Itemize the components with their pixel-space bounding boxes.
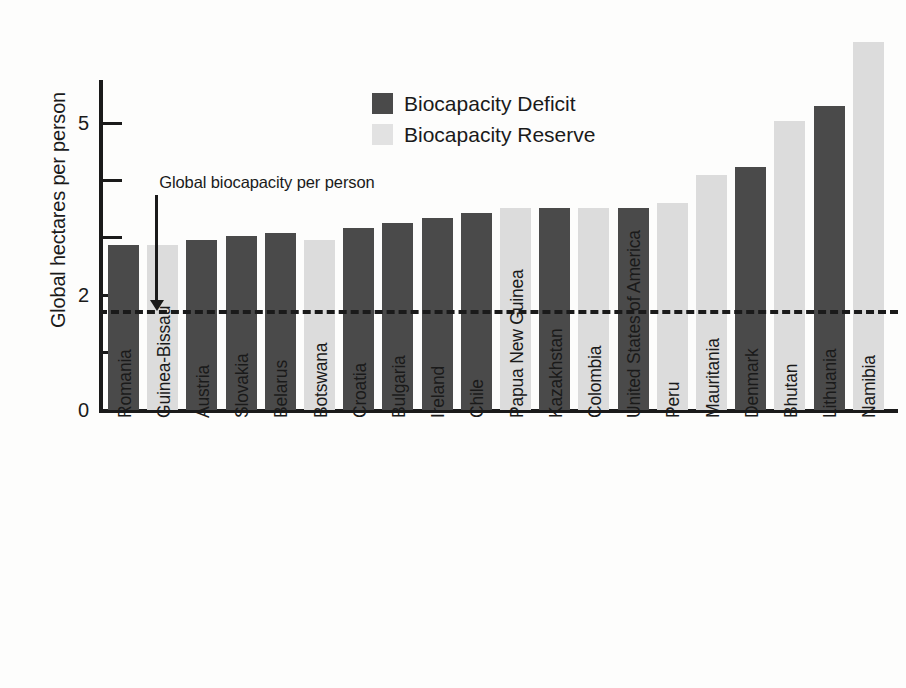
y-tick-label-2: 2 [78, 285, 89, 305]
x-axis-label: Mauritania [703, 338, 724, 418]
reference-line-arrow [155, 195, 158, 302]
x-axis-label: Namibia [859, 355, 880, 418]
x-axis-label: Kazakhstan [546, 329, 567, 418]
reference-line-label: Global biocapacity per person [159, 173, 374, 192]
y-tick-3 [99, 236, 122, 239]
legend-swatch-reserve [372, 124, 393, 145]
x-axis-label: Slovakia [232, 353, 253, 418]
bar [657, 203, 688, 410]
x-axis-label: Belarus [271, 360, 292, 418]
x-axis-label: Colombia [585, 346, 606, 418]
y-axis-title: Global hectares per person [38, 0, 78, 420]
x-axis-label: Chile [467, 379, 488, 418]
y-tick-5: 5 [99, 122, 122, 125]
x-axis-label: United States of America [624, 230, 645, 418]
legend-item-reserve: Biocapacity Reserve [372, 119, 595, 150]
reference-line [99, 310, 898, 314]
x-axis-label: Croatia [350, 363, 371, 418]
chart-page: Global hectares per person 025 Global bi… [0, 0, 906, 688]
x-axis-label: Austria [193, 365, 214, 418]
x-axis-label: Denmark [742, 348, 763, 418]
y-tick-label-5: 5 [78, 113, 89, 133]
x-axis-label: Lithuania [820, 349, 841, 418]
y-axis-line [99, 80, 103, 411]
x-axis-label: Bhutan [781, 364, 802, 418]
x-axis-label: Ireland [428, 366, 449, 418]
legend-label-reserve: Biocapacity Reserve [404, 123, 595, 147]
legend: Biocapacity Deficit Biocapacity Reserve [372, 88, 595, 150]
x-axis-label: Botswana [311, 343, 332, 418]
y-tick-label-0: 0 [78, 400, 89, 420]
legend-swatch-deficit [372, 93, 393, 114]
x-axis-label: Bulgaria [389, 355, 410, 418]
y-tick-4 [99, 179, 122, 182]
legend-item-deficit: Biocapacity Deficit [372, 88, 595, 119]
legend-label-deficit: Biocapacity Deficit [404, 92, 576, 116]
x-axis-label: Romania [115, 349, 136, 418]
x-axis-label: Guinea-Bissau [154, 306, 175, 418]
x-axis-label: Peru [663, 382, 684, 418]
x-axis-label: Papua New Guinea [507, 269, 528, 418]
